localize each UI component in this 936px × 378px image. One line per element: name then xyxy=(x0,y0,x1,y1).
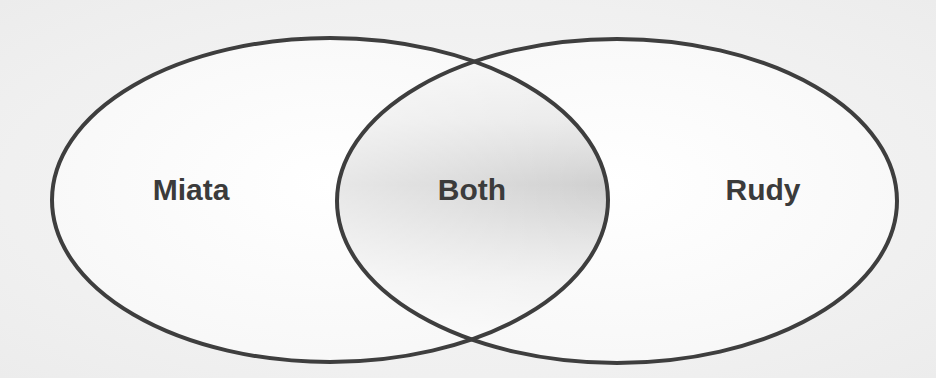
venn-diagram: Miata Both Rudy xyxy=(0,0,936,378)
label-rudy: Rudy xyxy=(726,173,801,206)
label-both: Both xyxy=(438,173,506,206)
venn-diagram-canvas: Miata Both Rudy xyxy=(0,0,936,378)
label-miata: Miata xyxy=(153,173,230,206)
